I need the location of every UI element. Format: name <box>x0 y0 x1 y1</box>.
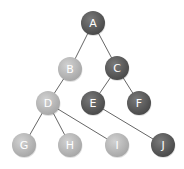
tree-node-j: J <box>151 133 176 158</box>
node-label: H <box>66 139 74 152</box>
tree-node-f: F <box>127 91 152 116</box>
node-label: G <box>20 139 29 152</box>
node-label: J <box>160 139 164 152</box>
tree-node-c: C <box>105 56 130 81</box>
tree-node-a: A <box>81 11 106 36</box>
node-label: I <box>115 139 118 152</box>
edges-layer <box>24 23 163 145</box>
tree-node-d: D <box>36 91 61 116</box>
tree-diagram: ABCDEFGHIJ <box>0 0 184 169</box>
tree-node-e: E <box>81 91 106 116</box>
node-label: F <box>136 97 142 110</box>
node-label: D <box>44 97 52 110</box>
node-label: C <box>113 62 121 75</box>
nodes-layer: ABCDEFGHIJ <box>12 11 176 158</box>
node-label: A <box>89 17 97 30</box>
node-label: B <box>66 63 74 76</box>
tree-node-b: B <box>58 57 83 82</box>
tree-node-g: G <box>12 133 37 158</box>
tree-node-i: I <box>105 133 130 158</box>
node-label: E <box>90 97 97 110</box>
tree-node-h: H <box>58 133 83 158</box>
